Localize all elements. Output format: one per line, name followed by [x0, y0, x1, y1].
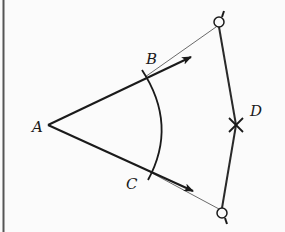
arc-BC — [142, 70, 162, 180]
ray-AC — [48, 125, 193, 191]
label-C: C — [126, 175, 138, 193]
pivot-circle-bottom — [217, 208, 227, 218]
construction-diagram: A B C D — [0, 0, 285, 232]
label-A: A — [30, 118, 43, 136]
ray-AB — [48, 57, 191, 125]
label-B: B — [145, 50, 157, 68]
line-D-to-bottom — [222, 125, 236, 208]
diagram-canvas: A B C D — [0, 0, 285, 232]
pivot-tick-top — [222, 11, 224, 17]
label-D: D — [249, 102, 262, 120]
ray-extension-bottom — [150, 172, 219, 209]
pivot-tick-bottom — [225, 218, 227, 224]
line-top-to-D — [219, 27, 236, 125]
pivot-circle-top — [214, 17, 224, 27]
